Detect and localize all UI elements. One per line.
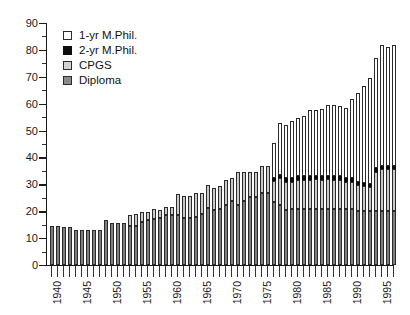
bar-segment-diploma (320, 209, 324, 265)
bar-segment-cpgs (248, 172, 252, 197)
bar-segment-cpgs (260, 166, 264, 193)
bar-segment-2yr-mphil (326, 176, 330, 179)
bar-segment-diploma (278, 205, 282, 265)
bar-segment-2yr-mphil (392, 166, 396, 169)
bar-segment-cpgs (164, 207, 168, 214)
bar-segment-diploma (110, 223, 114, 265)
x-axis-tick-label: 1955 (142, 281, 153, 304)
bar (50, 23, 54, 265)
bar-segment-cpgs (182, 196, 186, 218)
bar-segment-cpgs (356, 185, 360, 211)
bar-segment-diploma (122, 223, 126, 265)
bar-segment-cpgs (224, 180, 228, 205)
bar-segment-1yr-mphil (284, 125, 288, 178)
bar-segment-diploma (200, 214, 204, 265)
bar-segment-2yr-mphil (362, 183, 366, 186)
y-axis-tick-label: 80 (0, 45, 38, 56)
bar-segment-diploma (242, 201, 246, 265)
bar (248, 23, 252, 265)
x-axis-tick (321, 266, 322, 277)
x-axis-tick (357, 266, 358, 277)
legend-item-diploma: Diploma (63, 73, 137, 88)
x-axis-tick (279, 266, 280, 277)
bar-segment-diploma (332, 209, 336, 265)
x-axis-tick-label: 1950 (112, 281, 123, 304)
bar-segment-cpgs (128, 215, 132, 226)
bar-segment-cpgs (278, 178, 282, 205)
x-axis-tick (93, 266, 94, 277)
bar-segment-diploma (284, 210, 288, 265)
x-axis-tick-label: 1985 (322, 281, 333, 304)
bar-segment-2yr-mphil (272, 178, 276, 181)
bar (254, 23, 258, 265)
bar (332, 23, 336, 265)
x-axis-tick (285, 266, 286, 277)
bar-segment-2yr-mphil (374, 168, 378, 171)
bar-segment-1yr-mphil (296, 118, 300, 176)
bar-segment-diploma (314, 209, 318, 265)
bar-segment-2yr-mphil (356, 182, 360, 185)
bar-segment-cpgs (290, 182, 294, 209)
bar-segment-cpgs (188, 196, 192, 218)
bar (266, 23, 270, 265)
x-axis-tick (237, 266, 238, 277)
x-axis-tick (153, 266, 154, 277)
x-axis-tick (183, 266, 184, 277)
bar-segment-diploma (296, 209, 300, 265)
y-axis-tick-label: 10 (0, 233, 38, 244)
bar-segment-diploma (218, 209, 222, 265)
bar-segment-2yr-mphil (284, 178, 288, 181)
x-axis-tick (267, 266, 268, 277)
legend-label-cpgs: CPGS (79, 60, 112, 72)
bar-segment-2yr-mphil (338, 176, 342, 179)
bar-segment-diploma (140, 222, 144, 265)
bar (314, 23, 318, 265)
legend-item-1yr-mphil: 1-yr M.Phil. (63, 28, 137, 43)
bar-segment-diploma (338, 209, 342, 265)
x-axis-tick (105, 266, 106, 277)
bar (182, 23, 186, 265)
bar-segment-cpgs (350, 182, 354, 209)
bar-segment-cpgs (332, 180, 336, 209)
x-axis-tick (315, 266, 316, 277)
bar-segment-1yr-mphil (368, 78, 372, 184)
bar-segment-cpgs (200, 193, 204, 214)
bar-segment-diploma (362, 211, 366, 265)
bar (296, 23, 300, 265)
bar-segment-cpgs (302, 180, 306, 209)
legend-swatch-icon-1yr-mphil (63, 31, 72, 40)
bar-segment-cpgs (134, 214, 138, 226)
bar (230, 23, 234, 265)
bar-segment-cpgs (272, 181, 276, 203)
bar (302, 23, 306, 265)
legend-swatch-icon-diploma (63, 76, 72, 85)
x-axis-tick (261, 266, 262, 277)
bar-segment-diploma (128, 226, 132, 265)
bar-segment-diploma (386, 211, 390, 265)
bar-segment-diploma (98, 230, 102, 265)
legend-item-2yr-mphil: 2-yr M.Phil. (63, 43, 137, 58)
x-axis-tick (309, 266, 310, 277)
x-axis-tick (231, 266, 232, 277)
bar-segment-diploma (302, 209, 306, 265)
bar-segment-diploma (50, 226, 54, 265)
bar-segment-1yr-mphil (338, 106, 342, 177)
bar (380, 23, 384, 265)
bar (272, 23, 276, 265)
legend-label-diploma: Diploma (79, 75, 121, 87)
bar (224, 23, 228, 265)
bar (242, 23, 246, 265)
bar (344, 23, 348, 265)
bar-segment-diploma (350, 209, 354, 265)
bar-segment-cpgs (368, 187, 372, 211)
bar-segment-cpgs (242, 172, 246, 201)
x-axis-tick (255, 266, 256, 277)
bar (392, 23, 396, 265)
legend-swatch-icon-2yr-mphil (63, 46, 72, 55)
bar-segment-cpgs (362, 186, 366, 211)
bar (218, 23, 222, 265)
legend-label-1yr-mphil: 1-yr M.Phil. (79, 30, 137, 42)
bar-segment-diploma (80, 230, 84, 265)
x-axis-tick (393, 266, 394, 277)
bar-segment-cpgs (386, 169, 390, 211)
